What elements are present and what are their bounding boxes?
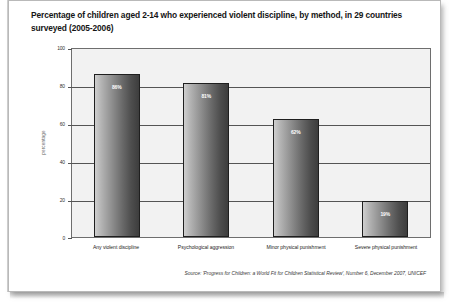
- page-gutter: [0, 0, 8, 292]
- y-tick-label: 20: [45, 198, 65, 203]
- bar[interactable]: 81%: [183, 83, 229, 237]
- bar-slot: 86%: [94, 49, 140, 237]
- x-tick-label: Severe physical punishment: [341, 244, 431, 250]
- bar-value-label: 62%: [274, 129, 318, 135]
- x-axis-tick-labels: Any violent disciplinePsychological aggr…: [71, 244, 431, 256]
- bar[interactable]: 86%: [94, 74, 140, 237]
- y-tick-label: 100: [45, 46, 65, 51]
- y-axis-tick-labels: 020406080100: [45, 48, 65, 238]
- bar-value-label: 19%: [363, 211, 407, 217]
- x-tick-label: Minor physical punishment: [251, 244, 341, 250]
- y-tick-mark: [68, 238, 72, 239]
- bar[interactable]: 62%: [273, 119, 319, 237]
- scanned-page: Percentage of children aged 2-14 who exp…: [8, 0, 441, 292]
- source-caption: Source: 'Progress for Children: a World …: [184, 270, 426, 276]
- chart-canvas: 86%81%62%19%: [71, 48, 431, 238]
- y-tick-label: 40: [45, 160, 65, 165]
- bar-slot: 19%: [362, 49, 408, 237]
- y-tick-label: 0: [45, 236, 65, 241]
- bars-group: 86%81%62%19%: [72, 49, 430, 237]
- page-title: Percentage of children aged 2-14 who exp…: [31, 9, 431, 34]
- chart-plot-area: percentage 020406080100 86%81%62%19% Any…: [31, 48, 431, 260]
- bar-slot: 62%: [273, 49, 319, 237]
- y-tick-label: 60: [45, 122, 65, 127]
- bar[interactable]: 19%: [362, 201, 408, 237]
- y-tick-label: 80: [45, 84, 65, 89]
- bar-value-label: 86%: [95, 84, 139, 90]
- x-tick-label: Any violent discipline: [71, 244, 161, 250]
- x-tick-label: Psychological aggression: [161, 244, 251, 250]
- page-shadow: [10, 292, 444, 299]
- bar-value-label: 81%: [184, 93, 228, 99]
- bar-slot: 81%: [183, 49, 229, 237]
